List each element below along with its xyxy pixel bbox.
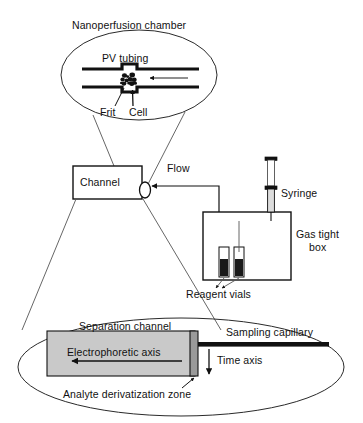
figure-diagram: Nanoperfusion chamber PV tubing Frit Cel… — [0, 0, 363, 423]
cell-cluster — [127, 73, 137, 86]
channel-connector-loop — [140, 182, 151, 198]
analyte-zone-leader-line — [182, 378, 194, 388]
gas-tight-box — [203, 212, 291, 280]
reagent-vial-left-liquid — [220, 259, 228, 276]
reagent-vials-label: Reagent vials — [186, 288, 251, 300]
cell-label: Cell — [129, 106, 148, 118]
syringe-label: Syringe — [281, 187, 317, 199]
flow-label: Flow — [167, 162, 190, 174]
pv-tubing-lower-wall — [82, 87, 199, 92]
syringe-barrel-lower — [268, 189, 275, 212]
gas-tight-box-label-line2: box — [309, 241, 326, 253]
frit-leader-line — [115, 88, 124, 106]
pv-tubing-label: PV tubing — [102, 52, 148, 64]
pv-tubing-upper-wall — [82, 64, 199, 69]
analyte-derivatization-zone-label: Analyte derivatization zone — [63, 388, 191, 400]
gas-tight-box-label-line1: Gas tight — [296, 228, 339, 240]
bottom-zoom-line-left — [22, 199, 76, 330]
cell-leader-line — [133, 90, 134, 106]
sampling-capillary-label: Sampling capillary — [226, 326, 313, 338]
syringe-barrel-upper — [268, 160, 275, 186]
middle-assembly-group — [22, 157, 291, 330]
nanoperfusion-chamber-title: Nanoperfusion chamber — [72, 19, 186, 31]
time-axis-label: Time axis — [217, 354, 262, 366]
channel-label: Channel — [80, 176, 120, 188]
separation-channel-label: Separation channel — [79, 320, 171, 332]
top-zoom-line-right — [146, 112, 185, 188]
frit-label: Frit — [100, 106, 116, 118]
electrophoretic-axis-label: Electrophoretic axis — [67, 346, 161, 358]
reagent-vial-right-liquid — [235, 259, 243, 276]
sampling-capillary-bar — [198, 342, 329, 347]
top-zoom-line-left — [93, 115, 114, 166]
diagram-canvas — [0, 0, 363, 423]
analyte-derivatization-zone — [190, 331, 198, 376]
